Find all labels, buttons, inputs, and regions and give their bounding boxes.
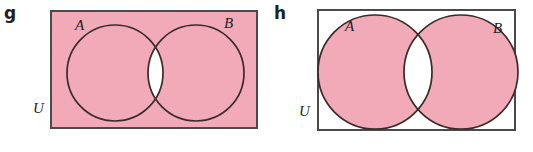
venn-diagram-g: A B U [30, 0, 266, 152]
part-label-h: h [274, 5, 286, 22]
set-a-label-g: A [75, 18, 84, 33]
figure-sheet: g [0, 0, 533, 152]
set-b-label-g: B [224, 16, 233, 31]
universe-label-g: U [33, 101, 44, 116]
set-b-label-h: B [493, 21, 502, 36]
universe-label-h: U [299, 104, 310, 119]
set-a-label-h: A [345, 19, 354, 34]
venn-diagram-h: A B U [296, 0, 533, 152]
part-label-g: g [4, 5, 16, 22]
